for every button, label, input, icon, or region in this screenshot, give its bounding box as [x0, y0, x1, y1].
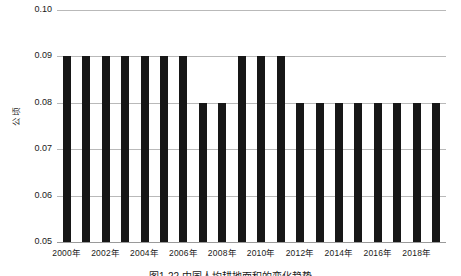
- bar: [432, 103, 440, 242]
- bar: [393, 103, 401, 242]
- bar: [179, 56, 187, 242]
- y-axis-tick-label: 0.10: [14, 5, 52, 14]
- y-axis-tick-label: 0.06: [14, 191, 52, 200]
- y-axis-tick-label: 0.05: [14, 237, 52, 246]
- bar: [277, 56, 285, 242]
- bar: [316, 103, 324, 242]
- bar: [257, 56, 265, 242]
- bar: [160, 56, 168, 242]
- gridline: [57, 103, 446, 104]
- gridline: [57, 56, 446, 57]
- gridline: [57, 196, 446, 197]
- bar: [199, 103, 207, 242]
- bar: [102, 56, 110, 242]
- bar: [218, 103, 226, 242]
- bar: [238, 56, 246, 242]
- gridline: [57, 149, 446, 150]
- bar: [63, 56, 71, 242]
- plot-area: [57, 10, 446, 242]
- y-axis-tick-label: 0.08: [14, 98, 52, 107]
- bar: [354, 103, 362, 242]
- bar: [413, 103, 421, 242]
- bar: [121, 56, 129, 242]
- bar: [82, 56, 90, 242]
- gridline: [57, 10, 446, 11]
- bar: [335, 103, 343, 242]
- chart-figure: 公顷 0.100.090.080.070.060.05 2000年2002年20…: [0, 0, 461, 276]
- gridline: [57, 242, 446, 243]
- bar: [141, 56, 149, 242]
- y-axis-tick-label: 0.07: [14, 144, 52, 153]
- y-axis-title: 公顷: [9, 86, 21, 146]
- bar: [374, 103, 382, 242]
- figure-caption: 图1-22 中国人均耕地面积的变化趋势: [0, 268, 461, 276]
- bar: [296, 103, 304, 242]
- x-axis-tick-label: 2018年: [394, 246, 440, 258]
- y-axis-tick-label: 0.09: [14, 51, 52, 60]
